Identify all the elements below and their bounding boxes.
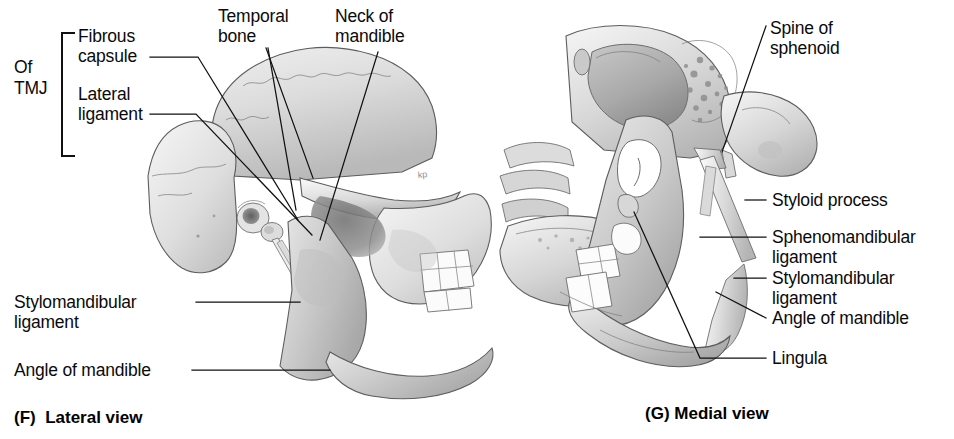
label-fibrous-capsule: Fibrouscapsule xyxy=(78,26,137,66)
label-neck-of-mandible: Neck ofmandible xyxy=(335,6,404,46)
label-stylomandibular-ligament-medial: Stylomandibularligament xyxy=(772,268,894,308)
caption-panel-g: (G) Medial view xyxy=(645,404,769,424)
label-angle-of-mandible: Angle of mandible xyxy=(14,360,151,380)
label-stylomandibular-ligament: Stylomandibularligament xyxy=(14,292,136,332)
label-spine-of-sphenoid: Spine ofsphenoid xyxy=(770,18,839,58)
label-temporal-bone: Temporalbone xyxy=(218,6,288,46)
label-styloid-process: Styloid process xyxy=(772,190,888,210)
label-lateral-ligament: Lateralligament xyxy=(78,84,143,124)
tmj-group-label: OfTMJ xyxy=(14,57,47,99)
anatomical-figure: kp OfTMJ Fibrouscapsule Lateralligament … xyxy=(0,0,954,439)
tmj-bracket xyxy=(62,33,75,156)
label-angle-of-mandible-medial: Angle of mandible xyxy=(772,308,909,328)
caption-panel-f: (F) Lateral view xyxy=(14,408,142,428)
label-lingula: Lingula xyxy=(772,348,827,368)
medial-view-skull xyxy=(500,26,817,367)
label-sphenomandibular-ligament: Sphenomandibularligament xyxy=(772,227,916,267)
lateral-view-skull xyxy=(148,47,493,398)
artist-signature: kp xyxy=(417,169,427,180)
